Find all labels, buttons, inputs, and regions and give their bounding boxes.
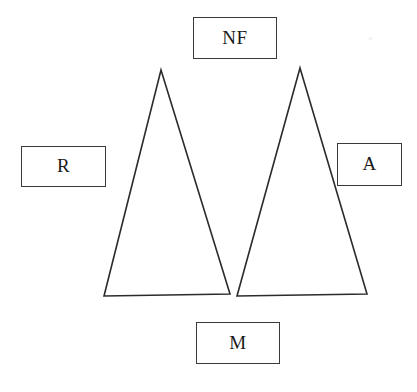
label-box-m: M xyxy=(196,322,280,364)
label-a-text: A xyxy=(362,154,376,173)
left-triangle xyxy=(104,70,230,296)
label-box-r: R xyxy=(21,146,106,187)
label-m-text: M xyxy=(229,333,246,352)
scan-artifact-speck xyxy=(369,37,372,40)
label-box-nf: NF xyxy=(193,17,277,59)
label-box-a: A xyxy=(337,143,402,186)
label-nf-text: NF xyxy=(222,28,247,47)
diagram-canvas: NF R A M xyxy=(0,0,417,392)
label-r-text: R xyxy=(57,156,70,175)
